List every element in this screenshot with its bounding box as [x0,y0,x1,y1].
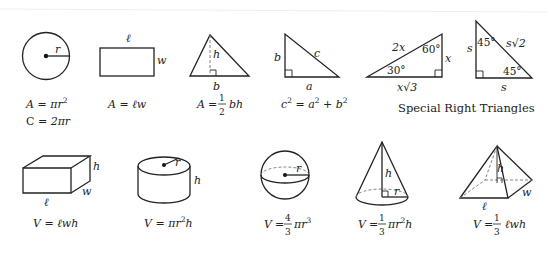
cylinder-figure: r h [138,156,201,203]
rectangle-area-formula: A = ℓw [107,98,147,111]
short-leg-label: x [445,52,452,65]
right-triangle-figure: b c a [274,34,339,93]
svg-text:2: 2 [219,107,225,117]
height-label: h [385,167,392,180]
sphere-figure: r [261,151,309,199]
angle-top-label: 45° [477,36,496,48]
pyramid-hidden-edge [485,146,497,180]
right-angle-mark [210,70,216,76]
long-leg-label: x√3 [397,81,417,94]
svg-text:V: V [264,218,273,231]
svg-text:=: = [484,218,493,231]
svg-text:4: 4 [285,213,291,223]
height-label: h [497,162,504,175]
svg-text:V: V [358,218,367,231]
cylinder-volume-formula: V = πr2h [144,215,193,230]
right-triangle-outline [285,34,339,77]
hyp-label: s√2 [506,37,526,50]
triangle-area-formula: A = 1 2 bh [196,93,243,117]
box-volume-formula: V = ℓwh [33,217,78,230]
height-label: h [93,160,100,173]
circle-area-formula: A = πr2 [25,96,68,111]
bottom-leg-label: s [501,81,507,94]
special-right-triangles-title: Special Right Triangles [398,101,535,115]
pythagorean-formula: c2 = a2 + b2 [281,96,348,111]
cylinder-bottom [138,194,190,203]
radius-label: r [55,43,61,56]
svg-text:πr3: πr3 [293,216,312,231]
width-label: w [82,185,92,198]
right-angle-mark [497,178,502,183]
width-label: w [522,186,532,199]
hyp-label: 2x [391,41,406,54]
radius-label: r [296,162,302,175]
svg-text:πr2h: πr2h [387,216,412,231]
leg-a-label: a [306,80,313,93]
pyramid-figure: h ℓ w [460,146,532,213]
angle-60-label: 60° [422,43,441,55]
box-front [23,168,71,193]
height-label: h [213,48,220,61]
radius-label: r [175,156,181,169]
svg-text:=: = [208,98,217,111]
circle-circumference-formula: C = 2πr [26,115,71,128]
pyramid-hidden-left [460,180,485,198]
height-label: h [194,174,201,187]
length-label: ℓ [126,32,131,45]
svg-text:=: = [275,218,284,231]
svg-text:3: 3 [285,227,291,237]
length-label: ℓ [44,196,49,209]
svg-text:A: A [196,98,205,111]
rectangle-figure: ℓ w A = ℓw [100,32,167,111]
svg-text:1: 1 [494,213,500,223]
svg-text:V: V [473,218,482,231]
svg-text:=: = [369,218,378,231]
circle-formulas: A = πr2 C = 2πr [25,96,71,128]
right-angle-mark [476,71,483,78]
svg-text:bh: bh [229,98,243,111]
right-angle-mark [382,191,388,197]
right-angle-mark [285,70,292,77]
base-label: b [213,80,220,93]
cone-base-front [356,197,408,205]
svg-text:1: 1 [219,93,225,103]
svg-text:3: 3 [379,227,385,237]
angle-bottom-label: 45° [503,65,522,77]
cone-figure: h r [356,142,408,205]
triangle-45-45-90: s 45° s√2 45° s [467,21,532,94]
triangle-30-60-90: 2x 60° x 30° x√3 [367,34,452,94]
leg-b-label: b [274,51,281,64]
rectangle-outline [100,48,154,76]
triangle-figure: h b [190,35,249,93]
right-angle-mark [435,70,442,77]
radius-label: r [394,185,400,198]
hypotenuse-label: c [314,47,320,60]
left-leg-label: s [467,42,473,55]
svg-text:1: 1 [379,213,385,223]
length-label: ℓ [482,200,487,213]
box-top [23,156,90,168]
top-divider [0,9,548,12]
circle-figure: r [23,33,70,80]
pyramid-volume-formula: V = 1 3 ℓwh [473,213,526,237]
angle-30-label: 30° [387,64,406,76]
rectangular-box-figure: h w ℓ [23,156,100,209]
width-label: w [157,54,167,67]
svg-text:3: 3 [494,227,500,237]
svg-text:ℓwh: ℓwh [505,218,526,231]
geometry-reference-sheet: r A = πr2 C = 2πr ℓ w A = ℓw h b A = 1 2… [0,0,548,258]
sphere-volume-formula: V = 4 3 πr3 [264,213,312,237]
cone-volume-formula: V = 1 3 πr2h [358,213,412,237]
